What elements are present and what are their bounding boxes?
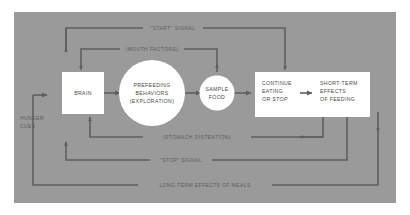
node-continue-eating-line2: EATING: [262, 88, 283, 94]
node-brain[interactable]: BRAIN: [62, 72, 104, 114]
flow-diagram: LONG-TERM EFFECTS OF MEALS LONG-TERM EFF…: [0, 0, 410, 215]
node-short-term-line2: EFFECTS: [320, 88, 346, 94]
node-prefeeding-line2: BEHAVIORS: [135, 90, 168, 96]
node-brain-label: BRAIN: [74, 90, 92, 96]
node-sample-food-line2: FOOD: [209, 94, 225, 100]
node-short-term-line1: SHORT-TERM: [320, 80, 358, 86]
edge-label-stop-signal: "STOP" SIGNAL: [160, 157, 202, 163]
edge-label-hunger-cues-line2: CUES: [20, 123, 36, 129]
edge-label-stomach-distention: (STOMACH DISTENTION): [163, 134, 231, 140]
edge-label-long-term-effects-top: LONG-TERM EFFECTS OF MEALS: [159, 182, 251, 188]
node-prefeeding-line1: PREFEEDING: [133, 82, 170, 88]
node-prefeeding-line3: (EXPLORATION): [130, 98, 175, 104]
node-prefeeding-behaviors[interactable]: PREFEEDING BEHAVIORS (EXPLORATION): [119, 60, 185, 126]
node-outcome-panel[interactable]: CONTINUE EATING OR STOP SHORT-TERM EFFEC…: [255, 72, 370, 117]
edge-label-start-signal: "START" SIGNAL: [151, 25, 196, 31]
node-sample-food-line1: SAMPLE: [205, 86, 228, 92]
node-short-term-line3: OF FEEDING: [320, 96, 355, 102]
node-continue-eating-line3: OR STOP: [262, 96, 288, 102]
diagram-canvas: LONG-TERM EFFECTS OF MEALS LONG-TERM EFF…: [0, 0, 410, 215]
node-continue-eating-line1: CONTINUE: [262, 80, 292, 86]
node-sample-food[interactable]: SAMPLE FOOD: [200, 76, 235, 111]
edge-label-mouth-factors: (MOUTH FACTORS): [126, 46, 179, 52]
edge-label-hunger-cues-line1: HUNGER: [20, 115, 44, 121]
